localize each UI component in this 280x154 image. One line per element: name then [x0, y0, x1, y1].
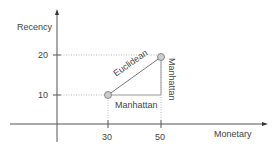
ytick-10-label: 10 [38, 91, 48, 100]
y-axis-label: Recency [17, 23, 52, 32]
y-axis-arrow-icon [55, 9, 59, 15]
xtick-30-label: 30 [102, 133, 112, 142]
manhattan-horizontal-label: Manhattan [115, 101, 158, 110]
xtick-50-label: 50 [155, 133, 165, 142]
manhattan-vertical-label: Manhattan [167, 58, 176, 101]
x-axis-label: Monetary [214, 130, 252, 139]
ytick-20-label: 20 [38, 51, 48, 60]
point-30-10 [105, 92, 112, 99]
point-50-20 [158, 54, 165, 61]
x-axis-arrow-icon [262, 122, 268, 126]
